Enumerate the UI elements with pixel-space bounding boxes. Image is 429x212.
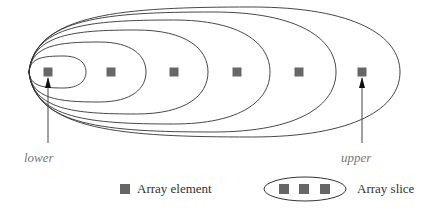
nested-slices (29, 7, 400, 137)
array-element-6 (358, 68, 367, 77)
array-element-2 (107, 68, 116, 77)
upper-label: upper (341, 150, 371, 166)
array-element-4 (233, 68, 242, 77)
legend-element-icon (120, 184, 130, 194)
legend-slice-element-2 (299, 184, 309, 194)
slice-curve-1 (29, 56, 86, 88)
lower-label: lower (24, 150, 54, 166)
slice-curve-3 (29, 30, 208, 114)
array-element-3 (170, 68, 179, 77)
slice-curve-5 (29, 12, 336, 132)
array-element-5 (295, 68, 304, 77)
lower-arrowhead-icon (45, 77, 51, 88)
legend-slice-label: Array slice (357, 181, 414, 197)
array-elements (44, 68, 367, 77)
legend-slice-element-1 (279, 184, 289, 194)
slice-curve-6 (29, 7, 400, 137)
array-element-1 (44, 68, 53, 77)
upper-arrowhead-icon (359, 77, 365, 88)
legend-element-label: Array element (137, 181, 212, 197)
legend-slice-element-3 (320, 184, 330, 194)
